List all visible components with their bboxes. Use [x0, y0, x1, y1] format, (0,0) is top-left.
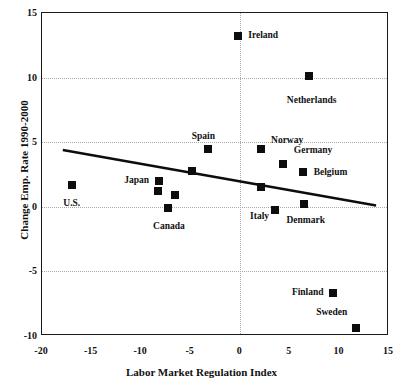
y-tick-label: -5 — [29, 265, 37, 276]
data-point-marker — [299, 168, 307, 176]
data-point-label: Norway — [271, 136, 303, 146]
y-tick-label: 5 — [32, 136, 37, 147]
x-tick-label: 5 — [286, 345, 291, 356]
plot-area: IrelandNetherlandsSpainNorwayGermanyBelg… — [41, 12, 388, 335]
data-point-label: Spain — [192, 132, 215, 142]
x-tick-label: 15 — [383, 345, 393, 356]
data-point-marker — [271, 206, 279, 214]
x-tick-label: -10 — [133, 345, 146, 356]
y-tick-label: 15 — [27, 7, 37, 18]
data-point-marker — [234, 32, 242, 40]
data-point-marker — [155, 177, 163, 185]
data-point-marker — [257, 145, 265, 153]
data-point-marker — [188, 167, 196, 175]
data-point-marker — [171, 191, 179, 199]
data-point-label: Germany — [294, 146, 333, 156]
x-axis-title: Labor Market Regulation Index — [0, 366, 403, 378]
data-point-marker — [68, 181, 76, 189]
data-point-label: Italy — [250, 212, 269, 222]
data-point-label: Belgium — [314, 168, 348, 178]
data-point-label: Ireland — [248, 32, 278, 42]
data-point-label: Japan — [124, 176, 149, 186]
data-point-label: Sweden — [316, 308, 347, 318]
data-point-marker — [154, 187, 162, 195]
y-tick-label: 10 — [27, 71, 37, 82]
data-point-marker — [164, 204, 172, 212]
data-point-label: U.S. — [63, 199, 80, 209]
y-tick-label: 0 — [32, 200, 37, 211]
y-axis-title: Change Emp. Rate 1990-2000 — [18, 70, 30, 270]
data-point-marker — [329, 289, 337, 297]
data-point-marker — [204, 145, 212, 153]
data-point-marker — [300, 200, 308, 208]
x-tick-label: -20 — [34, 345, 47, 356]
x-tick-label: -15 — [84, 345, 97, 356]
data-point-marker — [257, 183, 265, 191]
data-point-marker — [279, 160, 287, 168]
data-point-marker — [305, 72, 313, 80]
data-point-label: Finland — [292, 289, 324, 299]
x-tick-label: 0 — [237, 345, 242, 356]
data-point-marker — [352, 324, 360, 332]
data-point-label: Canada — [153, 222, 185, 232]
y-tick-label: -10 — [24, 330, 37, 341]
x-tick-label: -5 — [186, 345, 194, 356]
scatter-chart-figure: Change Emp. Rate 1990-2000 -10-5051015 I… — [0, 0, 403, 390]
data-point-label: Denmark — [286, 216, 325, 226]
data-point-label: Netherlands — [287, 96, 337, 106]
x-tick-label: 10 — [333, 345, 343, 356]
